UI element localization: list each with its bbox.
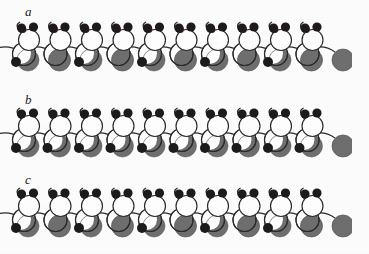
ear-dot-right: [312, 22, 321, 31]
ear-dot-right: [249, 188, 258, 197]
backbone-circle-upper: [82, 30, 103, 51]
chain-unit: [199, 22, 229, 71]
panel-label-a: a: [25, 4, 32, 20]
ear-dot-right: [60, 188, 69, 197]
backbone-circle-upper: [208, 30, 229, 51]
ear-dot-left: [174, 189, 183, 198]
panel-label-b: b: [25, 92, 32, 108]
base-black-dot: [232, 143, 242, 153]
ear-dot-right: [218, 188, 227, 197]
ear-dot-right: [249, 108, 258, 117]
base-black-dot: [263, 143, 273, 153]
base-black-dot: [74, 223, 84, 233]
backbone-circle-upper: [271, 196, 292, 217]
chain-unit: [233, 188, 260, 237]
backbone-circle-upper: [239, 116, 260, 137]
chain-unit: [199, 188, 229, 237]
ear-dot-right: [155, 108, 164, 117]
chain-unit: [262, 108, 292, 157]
ear-dot-right: [92, 108, 101, 117]
base-black-dot: [169, 143, 179, 153]
chain-unit: [107, 188, 134, 237]
backbone-circle-upper: [302, 196, 323, 217]
ear-dot-left: [206, 23, 215, 32]
backbone-circle-upper: [208, 116, 229, 137]
ear-dot-left: [300, 109, 309, 118]
chain-unit: [73, 22, 103, 71]
chain-unit: [136, 108, 166, 157]
chain-unit: [296, 188, 323, 237]
base-black-dot: [137, 143, 147, 153]
chain-diagram-c: [0, 184, 369, 250]
ear-dot-right: [249, 22, 258, 31]
chain-unit-partial: [332, 215, 354, 237]
tail-body: [332, 49, 354, 71]
panel-c: [0, 184, 369, 250]
ear-dot-left: [237, 189, 246, 198]
tail-body: [332, 135, 354, 157]
ear-dot-left: [111, 109, 120, 118]
ear-dot-left: [174, 109, 183, 118]
chain-unit: [296, 22, 323, 71]
ear-dot-right: [60, 22, 69, 31]
base-black-dot: [43, 143, 53, 153]
ear-dot-right: [218, 22, 227, 31]
tail-gray: [332, 215, 354, 237]
ear-dot-left: [80, 189, 89, 198]
ear-dot-right: [155, 188, 164, 197]
ear-dot-right: [312, 188, 321, 197]
backbone-circle-upper: [50, 116, 71, 137]
backbone-circle-upper: [302, 116, 323, 137]
ear-dot-left: [143, 189, 152, 198]
ear-dot-left: [143, 23, 152, 32]
ear-dot-left: [80, 109, 89, 118]
ear-dot-left: [237, 23, 246, 32]
chain-unit: [136, 22, 166, 71]
ear-dot-left: [48, 109, 57, 118]
backbone-circle-upper: [271, 116, 292, 137]
ear-dot-left: [80, 23, 89, 32]
figure-root: a b c: [0, 0, 369, 254]
base-black-dot: [200, 57, 210, 67]
ear-dot-right: [29, 188, 38, 197]
chain-unit: [42, 108, 72, 157]
backbone-circle-upper: [145, 116, 166, 137]
base-black-dot: [74, 143, 84, 153]
chain-unit: [44, 22, 71, 71]
base-black-dot: [200, 223, 210, 233]
base-black-dot: [295, 143, 305, 153]
backbone-circle-upper: [113, 116, 134, 137]
backbone-circle-upper: [176, 196, 197, 217]
ear-dot-right: [186, 188, 195, 197]
chain-unit: [44, 188, 71, 237]
ear-dot-right: [123, 108, 132, 117]
ear-dot-right: [29, 22, 38, 31]
panel-b: [0, 104, 369, 170]
ear-dot-left: [269, 23, 278, 32]
chain-unit: [199, 108, 229, 157]
ear-dot-left: [206, 109, 215, 118]
chain-unit: [168, 108, 198, 157]
chain-unit: [231, 108, 261, 157]
chain-unit: [294, 108, 324, 157]
base-black-dot: [263, 57, 273, 67]
chain-diagram-a: [0, 18, 369, 86]
backbone-circle-upper: [176, 30, 197, 51]
backbone-circle-upper: [176, 116, 197, 137]
base-black-dot: [263, 223, 273, 233]
ear-dot-left: [17, 109, 26, 118]
ear-dot-right: [123, 22, 132, 31]
base-black-dot: [106, 143, 116, 153]
chain-unit: [10, 188, 40, 237]
ear-dot-left: [143, 109, 152, 118]
chain-unit: [233, 22, 260, 71]
backbone-circle-upper: [19, 116, 40, 137]
panel-label-c: c: [25, 172, 31, 188]
ear-dot-right: [123, 188, 132, 197]
backbone-circle-upper: [239, 30, 260, 51]
ear-dot-left: [300, 189, 309, 198]
ear-dot-right: [29, 108, 38, 117]
chain-unit: [105, 108, 135, 157]
ear-dot-left: [206, 189, 215, 198]
chain-unit: [107, 22, 134, 71]
